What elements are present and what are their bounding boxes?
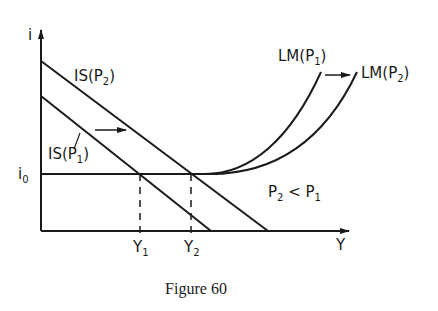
is-lm-diagram: i Y i0 IS(P2) IS(P1) LM(P1) LM(P2) P2 < … [0, 0, 438, 311]
figure-caption: Figure 60 [165, 280, 227, 298]
lm-p2-label: LM(P2) [361, 64, 409, 84]
lm-p1-label: LM(P1) [278, 47, 326, 67]
x-axis-label: Y [335, 236, 346, 254]
y1-tick-label: Y1 [132, 238, 149, 258]
condition-label: P2 < P1 [268, 183, 321, 203]
lm-p1-curve [205, 72, 321, 174]
lm-p2-curve [210, 72, 357, 174]
is-p1-label: IS(P1) [48, 145, 89, 165]
is-p1-curve [41, 96, 211, 231]
i0-label: i0 [18, 165, 29, 185]
y-axis-label: i [28, 26, 32, 44]
y2-tick-label: Y2 [183, 238, 200, 258]
is-p2-label: IS(P2) [74, 67, 115, 87]
